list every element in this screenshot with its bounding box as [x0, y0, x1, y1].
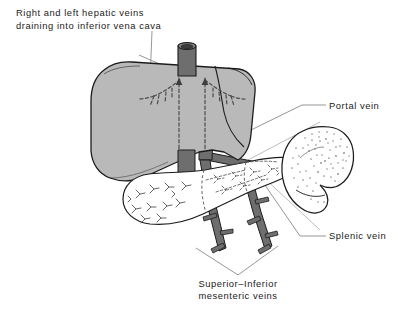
label-hepatic-veins: Right and left hepatic veins draining in…: [16, 7, 162, 31]
spleen-outline: [282, 127, 354, 213]
label-portal-vein: Portal vein: [329, 100, 379, 111]
hepatic-veins-label-line1: Right and left hepatic veins: [16, 7, 144, 18]
portal-vein-label-text: Portal vein: [329, 100, 379, 111]
mesenteric-veins-label-line1: Superior–Inferior: [198, 278, 277, 289]
label-mesenteric-veins: Superior–Inferior mesenteric veins: [198, 278, 277, 301]
label-splenic-vein: Splenic vein: [329, 230, 386, 241]
ivc-cylinder-body: [178, 46, 196, 76]
anatomy-illustration-canvas: Right and left hepatic veins draining in…: [0, 0, 406, 312]
spleen: [282, 127, 354, 213]
anatomy-figure: Right and left hepatic veins draining in…: [0, 0, 406, 312]
ivc-lumen: [181, 45, 193, 49]
splenic-vein-label-text: Splenic vein: [329, 230, 386, 241]
hepatic-veins-label-line2: draining into inferior vena cava: [16, 20, 162, 31]
leader-mesenteric-left: [196, 248, 238, 275]
mesenteric-veins-label-line2: mesenteric veins: [198, 290, 277, 301]
